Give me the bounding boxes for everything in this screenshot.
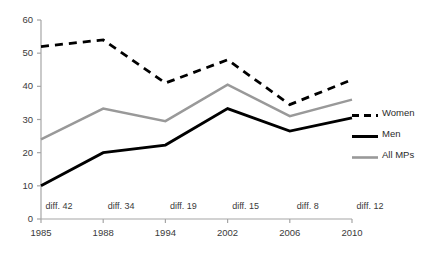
y-axis-tick-label: 10 [11,181,33,191]
x-axis-ticks [41,219,352,223]
y-axis-tick-label: 0 [11,214,33,224]
series-line-women [41,40,352,105]
series-line-all-mps [41,85,352,140]
x-axis-tick-label: 2010 [329,228,375,238]
y-axis-tick-label: 40 [11,81,33,91]
legend-item-all-mps: All MPs [352,147,426,168]
y-axis-tick-label: 60 [11,15,33,25]
legend-item-women: Women [352,105,426,126]
data-series-group [41,40,352,186]
legend-swatch-men [352,134,378,138]
legend-item-men: Men [352,126,426,147]
difference-annotation: diff. 19 [157,201,209,211]
legend-label-men: Men [382,128,400,139]
x-axis-tick-label: 1988 [80,228,126,238]
x-axis-tick-label: 1985 [18,228,64,238]
x-axis-tick-label: 1994 [142,228,188,238]
y-axis-tick-label: 30 [11,115,33,125]
x-axis-tick-label: 2006 [267,228,313,238]
legend-label-women: Women [382,107,415,118]
difference-annotation: diff. 12 [344,201,396,211]
legend-swatch-women [352,113,378,117]
y-axis-tick-label: 50 [11,48,33,58]
y-axis-tick-label: 20 [11,148,33,158]
difference-annotation: diff. 42 [33,201,85,211]
line-chart: 0102030405060 198519881994200220062010 d… [0,0,428,265]
difference-annotation: diff. 34 [95,201,147,211]
difference-annotation: diff. 15 [220,201,272,211]
axes [37,20,352,223]
legend-label-all-mps: All MPs [382,149,414,160]
difference-annotation: diff. 8 [282,201,334,211]
legend-swatch-all-mps [352,155,378,159]
series-line-men [41,109,352,186]
chart-legend: Women Men All MPs [352,105,426,168]
x-axis-tick-label: 2002 [205,228,251,238]
